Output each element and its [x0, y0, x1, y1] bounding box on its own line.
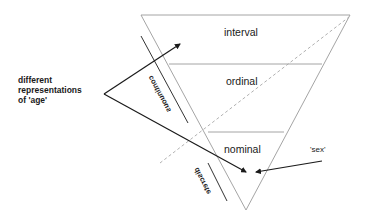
continuous-label: continuous — [146, 74, 173, 114]
sex-arrow-to-nominal — [256, 161, 322, 172]
measurement-levels-diagram: interval ordinal nominal continuous disc… — [0, 0, 367, 220]
level-label-ordinal: ordinal — [226, 75, 258, 87]
age-annotation-line2: representations — [18, 85, 82, 95]
age-annotation-line1: different — [18, 75, 52, 85]
level-triangle — [141, 15, 350, 210]
level-label-nominal: nominal — [224, 143, 261, 155]
discrete-label: discrete — [192, 166, 213, 196]
dashed-diagonal — [160, 17, 349, 163]
age-annotation-line3: of 'age' — [18, 95, 47, 105]
sex-annotation: 'sex' — [310, 145, 326, 154]
level-label-interval: interval — [224, 26, 258, 38]
age-arrow-to-nominal — [104, 94, 246, 172]
